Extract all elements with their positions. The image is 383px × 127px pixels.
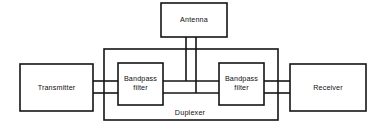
label-transmitter: Transmitter [38, 83, 76, 92]
label-antenna: Antenna [180, 16, 208, 25]
label-receiver: Receiver [313, 83, 343, 92]
duplexer-block-diagram: Antenna Transmitter Bandpassfilter Bandp… [0, 0, 383, 127]
label-bandpass-filter-tx-line2: filter [133, 83, 147, 92]
label-duplexer: Duplexer [175, 109, 205, 118]
label-bandpass-filter-tx: Bandpassfilter [119, 75, 163, 92]
label-bandpass-filter-rx-line2: filter [234, 83, 248, 92]
label-bandpass-filter-rx: Bandpassfilter [220, 75, 264, 92]
